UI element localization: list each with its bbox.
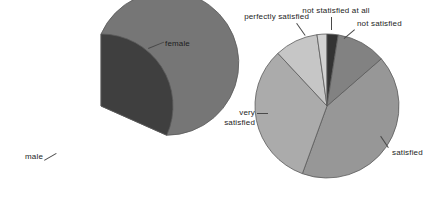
pie-label-perfectly-satisfied: perfectly satisfied [232,12,309,22]
satisfaction-pie-chart: not statisfied at all not satisfied perf… [0,0,439,200]
pie-label-satisfied: satisfied [392,148,423,158]
not-statisfied-at-all-leader-line [331,17,332,30]
satisfaction-pie-svg [0,0,439,200]
pie-label-very-satisfied: very satisfied [214,108,255,127]
very-satisfied-label-line2: satisfied [224,118,255,127]
very-satisfied-label-line1: very [239,108,255,117]
pie-label-not-satisfied: not satisfied [357,19,402,29]
pie-chart-figure: female male not statisfied at all not sa… [0,0,439,200]
very-satisfied-leader-line [257,113,268,114]
